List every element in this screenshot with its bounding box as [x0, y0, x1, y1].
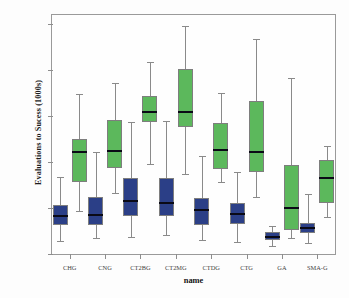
x-tick-mark [317, 254, 318, 259]
whisker-cap-lower [234, 242, 241, 243]
y-tick-mark [48, 70, 53, 71]
whisker-cap-lower [305, 243, 312, 244]
whisker-cap-upper [199, 156, 206, 157]
whisker-cap-lower [93, 238, 100, 239]
whisker-cap-upper [324, 146, 331, 147]
y-tick-mark [48, 116, 53, 117]
whisker-cap-lower [128, 237, 135, 238]
box-blue-cng [88, 197, 103, 225]
whisker-cap-lower [199, 240, 206, 241]
median-green-ct2mg [178, 111, 193, 113]
median-blue-ctg [230, 213, 245, 215]
whisker-cap-lower [57, 241, 64, 242]
box-green-chg [72, 139, 87, 182]
whisker-blue-sma-g [308, 194, 309, 242]
box-blue-ct2mg [159, 178, 174, 216]
whisker-cap-lower [147, 164, 154, 165]
whisker-cap-upper [163, 121, 170, 122]
whisker-cap-lower [112, 193, 119, 194]
whisker-cap-upper [147, 62, 154, 63]
median-green-ctg [249, 151, 264, 153]
median-green-chg [72, 151, 87, 153]
median-blue-ct2bg [123, 200, 138, 202]
median-blue-ctdg [194, 209, 209, 211]
y-tick-mark [48, 254, 53, 255]
whisker-cap-upper [234, 172, 241, 173]
median-green-ct2bg [142, 111, 157, 113]
whisker-cap-upper [253, 39, 260, 40]
y-axis-title: Evaluations to Sucess (1000s) [34, 33, 43, 233]
y-tick-mark [48, 24, 53, 25]
x-tick-mark [247, 254, 248, 259]
box-green-ct2bg [142, 96, 157, 122]
box-green-ct2mg [178, 69, 193, 127]
median-blue-sma-g [300, 227, 315, 229]
whisker-cap-lower [288, 238, 295, 239]
whisker-cap-upper [93, 152, 100, 153]
whisker-cap-lower [76, 211, 83, 212]
whisker-cap-upper [218, 93, 225, 94]
y-tick-mark [48, 162, 53, 163]
x-tick-mark [211, 254, 212, 259]
box-green-sma-g [319, 160, 334, 202]
median-green-cng [107, 150, 122, 152]
whisker-cap-lower [182, 174, 189, 175]
median-green-ctdg [213, 149, 228, 151]
box-blue-ct2bg [123, 178, 138, 216]
boxplot-figure: Evaluations to Sucess (1000s) 0100200300… [0, 0, 349, 298]
median-blue-chg [53, 215, 68, 217]
whisker-cap-upper [182, 26, 189, 27]
whisker-cap-lower [218, 182, 225, 183]
whisker-cap-lower [163, 235, 170, 236]
box-green-cng [107, 120, 122, 168]
plot-area: 0100200300400500CHGCNGCT2BGCT2MGCTDGCTGG… [51, 14, 336, 255]
box-green-ctdg [213, 123, 228, 168]
median-blue-cng [88, 214, 103, 216]
median-blue-ct2mg [159, 202, 174, 204]
median-green-ga [284, 207, 299, 209]
whisker-cap-upper [288, 78, 295, 79]
x-axis-title: name [51, 276, 336, 285]
x-tick-label-sma-g: SMA-G [287, 264, 347, 271]
plot-inner: 0100200300400500CHGCNGCT2BGCT2MGCTDGCTGG… [52, 15, 335, 254]
median-blue-ga [265, 236, 280, 238]
x-tick-mark [140, 254, 141, 259]
whisker-cap-upper [128, 122, 135, 123]
box-green-ga [284, 165, 299, 230]
whisker-cap-upper [112, 83, 119, 84]
x-tick-mark [105, 254, 106, 259]
x-tick-mark [70, 254, 71, 259]
x-tick-mark [282, 254, 283, 259]
whisker-cap-upper [76, 94, 83, 95]
x-tick-mark [176, 254, 177, 259]
whisker-cap-upper [305, 194, 312, 195]
median-green-sma-g [319, 177, 334, 179]
whisker-cap-upper [57, 177, 64, 178]
whisker-cap-lower [253, 197, 260, 198]
whisker-cap-upper [269, 226, 276, 227]
whisker-cap-lower [324, 217, 331, 218]
whisker-cap-lower [269, 246, 276, 247]
box-green-ctg [249, 101, 264, 172]
